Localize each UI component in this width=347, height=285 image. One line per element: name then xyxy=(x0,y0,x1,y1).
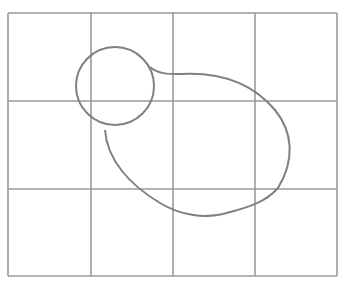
blob-shape xyxy=(105,67,290,216)
grid-diagram xyxy=(0,0,347,285)
grid xyxy=(8,13,337,276)
circle-shape xyxy=(76,47,154,125)
